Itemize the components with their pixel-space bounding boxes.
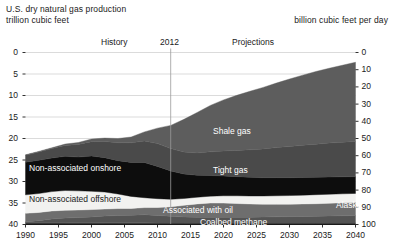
- y-axis-right-tick-label: 0: [362, 47, 384, 57]
- y-axis-right-tick-label: 40: [362, 116, 384, 126]
- y-axis-left-tick-label: 30: [0, 176, 18, 186]
- y-axis-right-tick-label: 50: [362, 133, 384, 143]
- y-axis-left-tick-label: 5: [0, 69, 18, 79]
- y-axis-right-tick-label: 100: [362, 219, 384, 229]
- y-axis-right-tick-label: 10: [362, 64, 384, 74]
- series-label-tight-gas: Tight gas: [213, 165, 248, 175]
- series-label-associated-with-oil: Associated with oil: [163, 205, 233, 215]
- chart-container: U.S. dry natural gas production trillion…: [0, 0, 394, 242]
- x-axis-tick-label: 2015: [176, 230, 206, 240]
- y-axis-right-tick-label: 80: [362, 185, 384, 195]
- y-axis-left-tick-label: 40: [0, 219, 18, 229]
- series-label-non-associated-onshore: Non-associated onshore: [29, 163, 121, 173]
- x-axis-tick-label: 2010: [143, 230, 173, 240]
- y-axis-left-tick-label: 35: [0, 198, 18, 208]
- y-axis-left-tick-label: 10: [0, 90, 18, 100]
- y-axis-left-tick-label: 15: [0, 112, 18, 122]
- y-axis-left-tick-label: 0: [0, 47, 18, 57]
- x-axis-tick-label: 2000: [77, 230, 107, 240]
- x-axis-tick-label: 2005: [110, 230, 140, 240]
- series-label-alaska: Alaska: [336, 200, 362, 210]
- x-axis-tick-label: 2040: [341, 230, 371, 240]
- y-axis-right-tick-label: 20: [362, 81, 384, 91]
- y-axis-left-tick-label: 25: [0, 155, 18, 165]
- x-axis-tick-label: 1995: [44, 230, 74, 240]
- y-axis-left-tick-label: 20: [0, 133, 18, 143]
- area-shale-gas: [26, 62, 356, 155]
- series-label-non-associated-offshore: Non-associated offshore: [29, 194, 121, 204]
- x-axis-tick-label: 2035: [308, 230, 338, 240]
- y-axis-right-tick-label: 60: [362, 150, 384, 160]
- x-axis-tick-label: 2030: [275, 230, 305, 240]
- y-axis-right-tick-label: 30: [362, 99, 384, 109]
- x-axis-tick-label: 2020: [209, 230, 239, 240]
- series-label-shale-gas: Shale gas: [213, 126, 251, 136]
- y-axis-right-tick-label: 70: [362, 167, 384, 177]
- x-axis-tick-label: 1990: [11, 230, 41, 240]
- y-axis-right-tick-label: 90: [362, 202, 384, 212]
- x-axis-tick-label: 2025: [242, 230, 272, 240]
- series-label-coalbed-methane: Coalbed methane: [200, 217, 267, 227]
